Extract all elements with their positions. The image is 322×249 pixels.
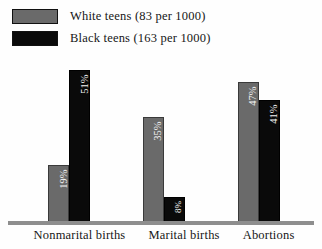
bar-group: 47%41% bbox=[238, 82, 280, 221]
category-label: Marital births bbox=[148, 228, 219, 243]
bar-value-label: 51% bbox=[80, 74, 91, 93]
bar-group: 19%51% bbox=[48, 70, 90, 221]
bar-value-label: 41% bbox=[269, 104, 280, 123]
bar-value-label: 19% bbox=[59, 169, 70, 188]
bar-value-label: 47% bbox=[248, 86, 259, 105]
category-labels: Nonmarital birthsMarital birthsAbortions bbox=[22, 228, 306, 243]
legend-item-black-teens: Black teens (163 per 1000) bbox=[12, 31, 211, 46]
bar: 8% bbox=[164, 197, 185, 221]
category-label: Nonmarital births bbox=[34, 228, 126, 243]
bar: 41% bbox=[259, 100, 280, 222]
bar-value-label: 35% bbox=[153, 122, 164, 141]
legend-label-white-teens: White teens (83 per 1000) bbox=[70, 9, 206, 24]
legend-item-white-teens: White teens (83 per 1000) bbox=[12, 9, 211, 24]
bar: 51% bbox=[69, 70, 90, 221]
plot-area: 19%51%35%8%47%41% bbox=[0, 58, 322, 221]
bar-value-label: 8% bbox=[174, 201, 183, 213]
chart-legend: White teens (83 per 1000) Black teens (1… bbox=[12, 9, 211, 46]
legend-label-black-teens: Black teens (163 per 1000) bbox=[70, 31, 211, 46]
bar: 47% bbox=[238, 82, 259, 221]
x-axis-line bbox=[8, 221, 314, 225]
bar-groups: 19%51%35%8%47%41% bbox=[22, 58, 306, 221]
category-label: Abortions bbox=[243, 228, 295, 243]
legend-swatch-black-teens bbox=[12, 31, 58, 46]
bar-group: 35%8% bbox=[143, 117, 185, 221]
bar: 35% bbox=[143, 117, 164, 221]
bar-chart: White teens (83 per 1000) Black teens (1… bbox=[0, 0, 322, 249]
bar: 19% bbox=[48, 165, 69, 221]
legend-swatch-white-teens bbox=[12, 9, 58, 24]
